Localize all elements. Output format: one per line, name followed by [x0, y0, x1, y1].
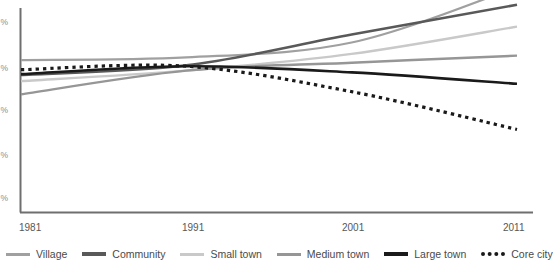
y-tick-label-4: %	[0, 193, 8, 203]
y-tick-label-3: %	[0, 150, 8, 160]
x-tick-label-1981: 1981	[19, 222, 41, 234]
legend-label: Medium town	[307, 248, 369, 260]
chart-legend: VillageCommunitySmall townMedium townLar…	[6, 243, 533, 265]
legend-label: Community	[112, 248, 165, 260]
line-swatch-medium-town	[277, 253, 301, 256]
legend-label: Large town	[414, 248, 466, 260]
series-line-core-city	[21, 65, 517, 129]
series-line-medium-town	[21, 56, 517, 95]
x-tick-label-2001: 2001	[342, 222, 364, 234]
line-swatch-small-town	[180, 253, 204, 256]
x-tick-label-1991: 1991	[182, 222, 204, 234]
legend-item-medium-town[interactable]: Medium town	[277, 248, 369, 260]
legend-item-village[interactable]: Village	[6, 248, 67, 260]
line-swatch-core-city	[481, 252, 505, 256]
y-tick-label-0: %	[0, 17, 8, 27]
legend-item-small-town[interactable]: Small town	[180, 248, 261, 260]
legend-label: Core city	[511, 248, 552, 260]
legend-item-community[interactable]: Community	[82, 248, 165, 260]
legend-label: Small town	[210, 248, 261, 260]
line-swatch-community	[82, 252, 106, 256]
legend-item-large-town[interactable]: Large town	[384, 248, 466, 260]
series-line-large-town	[21, 66, 517, 84]
legend-label: Village	[36, 248, 67, 260]
y-tick-label-1: %	[0, 63, 8, 73]
y-tick-label-2: %	[0, 105, 8, 115]
legend-item-core-city[interactable]: Core city	[481, 248, 552, 260]
axis-lines	[20, 8, 533, 213]
line-swatch-large-town	[384, 252, 408, 256]
series-layer	[21, 0, 517, 129]
x-tick-label-2011: 2011	[503, 222, 525, 234]
line-swatch-village	[6, 253, 30, 256]
